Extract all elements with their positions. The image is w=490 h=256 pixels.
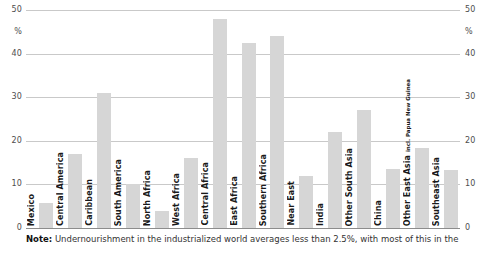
- bar-slot: West Africa: [171, 10, 200, 228]
- left-axis-tick-0: 50: [0, 6, 26, 14]
- bar-category-sublabel: incl. Papua New Guinea: [405, 79, 411, 152]
- bar: [97, 93, 111, 228]
- bar-category-label: Central Africa: [201, 162, 210, 226]
- right-axis-tick-4: 20: [460, 137, 490, 145]
- bar-slot: Southeast Asia: [431, 10, 460, 228]
- bar-category-label: North Africa: [143, 170, 152, 226]
- bar-category-label: Mexico: [27, 194, 36, 226]
- bar: [213, 19, 227, 228]
- bar-slot: Other South Asia: [344, 10, 373, 228]
- bar-category-label: Caribbean: [85, 179, 94, 226]
- bar: [386, 169, 400, 228]
- bar: [184, 158, 198, 228]
- bar: [270, 36, 284, 228]
- bar: [328, 132, 342, 228]
- right-axis-tick-5: 10: [460, 180, 490, 188]
- bar: [444, 170, 458, 228]
- bar-slot: Central America: [55, 10, 84, 228]
- bar-slot: North Africa: [142, 10, 171, 228]
- bar-slot: Near East: [286, 10, 315, 228]
- bar-slot: Central Africa: [200, 10, 229, 228]
- bar-slot: East Africa: [229, 10, 258, 228]
- bar: [242, 43, 256, 228]
- bar-slot: Caribbean: [84, 10, 113, 228]
- bar: [126, 184, 140, 228]
- right-axis-tick-2: 40: [460, 50, 490, 58]
- bar: [357, 110, 371, 228]
- bar-slot: India: [315, 10, 344, 228]
- bar-category-label: Southeast Asia: [432, 157, 441, 226]
- right-axis-tick-1: %: [460, 28, 490, 36]
- bar: [299, 176, 313, 228]
- left-axis-tick-3: 30: [0, 93, 26, 101]
- left-axis-tick-1: %: [0, 28, 26, 36]
- right-axis-tick-0: 50: [460, 6, 490, 14]
- left-axis-tick-5: 10: [0, 180, 26, 188]
- bar-category-label: South America: [114, 159, 123, 226]
- bar: [39, 203, 53, 228]
- plot-area: 50%40302010050%403020100 MexicoCentral A…: [26, 10, 460, 228]
- note-lead-label: Note:: [26, 234, 52, 244]
- bar-category-label: Southern Africa: [259, 154, 268, 226]
- bar-category-label: China: [374, 200, 383, 226]
- note-text: Undernourishment in the industrialized w…: [52, 234, 458, 244]
- chart-note: Note: Undernourishment in the industrial…: [26, 234, 476, 245]
- undernourishment-bar-chart: 50%40302010050%403020100 MexicoCentral A…: [0, 0, 490, 256]
- bar-category-label: West Africa: [172, 173, 181, 226]
- bar: [68, 154, 82, 228]
- bar: [155, 211, 169, 228]
- bar-slot: Mexico: [26, 10, 55, 228]
- left-axis-tick-4: 20: [0, 137, 26, 145]
- right-axis-tick-6: 0: [460, 224, 490, 232]
- left-axis-tick-2: 40: [0, 50, 26, 58]
- bar-category-label: East Africa: [230, 176, 239, 226]
- bar-category-label: India: [316, 203, 325, 226]
- bar-category-label: Central America: [56, 152, 65, 226]
- bar-category-label: Near East: [287, 181, 296, 226]
- bar-slot: China: [373, 10, 402, 228]
- left-axis-tick-6: 0: [0, 224, 26, 232]
- bar: [415, 148, 429, 228]
- bar-slot: South America: [113, 10, 142, 228]
- right-axis-tick-3: 30: [460, 93, 490, 101]
- bar-category-label: Other East Asia incl. Papua New Guinea: [403, 79, 413, 226]
- axis-baseline: [26, 228, 460, 229]
- bar-category-label: Other South Asia: [345, 148, 354, 226]
- bar-series: MexicoCentral AmericaCaribbeanSouth Amer…: [26, 10, 460, 228]
- bar-slot: Southern Africa: [258, 10, 287, 228]
- bar-slot: Other East Asia incl. Papua New Guinea: [402, 10, 431, 228]
